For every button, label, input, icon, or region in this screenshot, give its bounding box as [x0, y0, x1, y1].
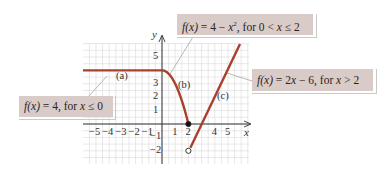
tick-label: −4 [102, 126, 113, 137]
tick-label: −5 [89, 126, 100, 137]
callout-b-fx: f(x) [182, 21, 198, 33]
tick-label: 2 [153, 90, 158, 101]
y-axis-label: y [152, 28, 157, 40]
x-axis-label: x [244, 126, 249, 138]
callout-leader-lines [89, 37, 252, 96]
tick-label: 5 [225, 126, 230, 137]
callout-c-text2: − 6, for [296, 74, 336, 86]
callout-b-tail: ≤ 2 [282, 21, 300, 33]
callout-a: f(x) = 4, for x ≤ 0 [19, 96, 113, 117]
callout-c: f(x) = 2x − 6, for x > 2 [252, 69, 373, 91]
callout-b-text: = 4 − [198, 21, 228, 33]
tick-label: 1 [172, 126, 177, 137]
tick-label: −1 [150, 130, 161, 141]
tick-label: 1 [153, 104, 158, 115]
tick-label: 4 [212, 126, 217, 137]
callout-a-tail: ≤ 0 [85, 100, 103, 112]
tick-label: 3 [153, 77, 158, 88]
callout-a-text: = 4, for [40, 100, 80, 112]
callout-c-fx: f(x) [257, 74, 273, 86]
callout-b: f(x) = 4 − x2, for 0 < x ≤ 2 [177, 14, 313, 35]
segment-label-b: (b) [178, 79, 190, 90]
tick-label: 5 [153, 50, 158, 61]
callout-c-tail: > 2 [341, 74, 359, 86]
callout-a-fx: f(x) [24, 100, 40, 112]
tick-label: −2 [150, 144, 161, 155]
segment-label-c: (c) [217, 90, 229, 101]
segment-label-a: (a) [116, 70, 128, 81]
tick-label: 2 [185, 126, 190, 137]
tick-label: −2 [129, 126, 140, 137]
callout-b-text2: , for 0 < [237, 21, 277, 33]
callout-c-text: = 2 [273, 74, 291, 86]
tick-label: −3 [115, 126, 126, 137]
